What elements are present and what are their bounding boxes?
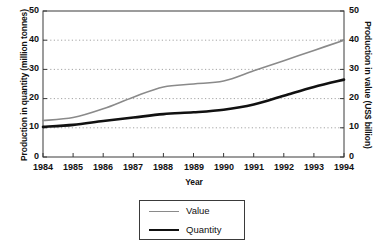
series-line-quantity xyxy=(43,80,344,127)
legend-item-value: Value xyxy=(140,202,246,222)
series-line-value xyxy=(43,40,344,120)
chart-container: Production in quantity (million tonnes) … xyxy=(0,0,384,250)
chart-legend: Value Quantity xyxy=(139,200,245,240)
legend-label-value: Value xyxy=(186,205,210,216)
legend-swatch-quantity-icon xyxy=(149,229,179,231)
legend-label-quantity: Quantity xyxy=(186,224,221,235)
legend-swatch-value-icon xyxy=(149,211,179,212)
legend-item-quantity: Quantity xyxy=(140,221,246,241)
